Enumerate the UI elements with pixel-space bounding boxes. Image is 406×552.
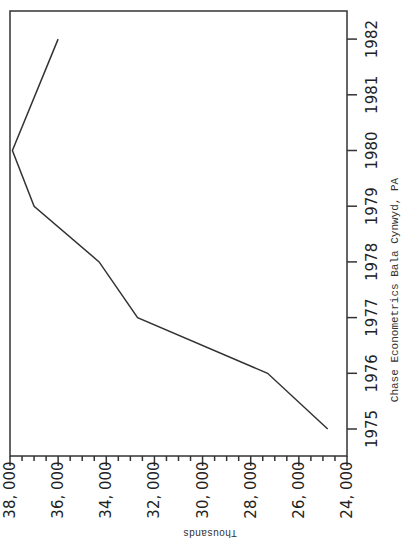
year-tick-label: 1978 bbox=[363, 243, 381, 281]
data-line bbox=[12, 39, 327, 429]
year-tick-label: 1979 bbox=[363, 187, 381, 225]
value-tick-label: 30, 000 bbox=[194, 461, 212, 518]
axis-title: Thousands bbox=[183, 527, 237, 538]
year-tick-label: 1977 bbox=[363, 299, 381, 337]
value-axis: 38, 00036, 00034, 00032, 00030, 00028, 0… bbox=[1, 456, 356, 519]
plot-frame bbox=[10, 11, 347, 456]
chart: 19751976197719781979198019811982 38, 000… bbox=[0, 0, 406, 552]
value-tick-label: 24, 000 bbox=[338, 461, 356, 518]
year-tick-label: 1980 bbox=[363, 131, 381, 169]
year-tick-label: 1982 bbox=[363, 20, 381, 58]
year-axis: 19751976197719781979198019811982 bbox=[347, 20, 381, 448]
year-tick-label: 1975 bbox=[363, 410, 381, 448]
value-tick-label: 28, 000 bbox=[242, 461, 260, 518]
value-tick-label: 26, 000 bbox=[290, 461, 308, 518]
year-tick-label: 1981 bbox=[363, 76, 381, 114]
value-tick-label: 32, 000 bbox=[145, 461, 163, 518]
value-tick-label: 38, 000 bbox=[1, 461, 19, 518]
source-note: Chase Econometrics Bala Cynwyd, PA bbox=[389, 177, 401, 402]
year-tick-label: 1976 bbox=[363, 354, 381, 392]
value-tick-label: 34, 000 bbox=[97, 461, 115, 518]
value-tick-label: 36, 000 bbox=[49, 461, 67, 518]
